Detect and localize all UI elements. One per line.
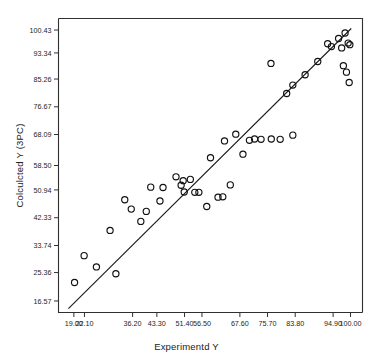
data-point <box>346 79 352 85</box>
y-axis-tick-marks <box>54 30 59 301</box>
y-tick-label: 100.43 <box>30 26 52 35</box>
y-tick-label: 85.26 <box>34 75 52 84</box>
x-tick-label: 67.60 <box>231 319 249 328</box>
y-tick-label: 33.74 <box>34 241 52 250</box>
data-point <box>290 82 296 88</box>
data-point <box>240 151 246 157</box>
data-point <box>339 45 345 51</box>
y-tick-label: 93.34 <box>34 49 52 58</box>
x-tick-label: 51.40 <box>176 319 194 328</box>
x-tick-label: 83.80 <box>286 319 304 328</box>
data-point <box>71 279 77 285</box>
y-tick-label: 68.09 <box>34 130 52 139</box>
data-point <box>343 69 349 75</box>
x-tick-label: 56.50 <box>193 319 211 328</box>
y-tick-label: 50.94 <box>34 186 52 195</box>
data-point <box>347 42 353 48</box>
x-tick-label: 43.30 <box>148 319 166 328</box>
data-point <box>207 155 213 161</box>
data-point <box>277 136 283 142</box>
y-axis-tick-labels: 16.5725.3633.7442.3350.9458.5068.0976.67… <box>30 26 52 306</box>
y-tick-label: 76.67 <box>34 102 52 111</box>
x-tick-label: 100.00 <box>340 319 362 328</box>
x-tick-label: 22.10 <box>75 319 93 328</box>
data-point <box>204 203 210 209</box>
data-point <box>143 208 149 214</box>
data-point <box>268 60 274 66</box>
data-point <box>128 206 134 212</box>
y-axis-title: Colculcted Y (3PC) <box>14 91 25 241</box>
y-tick-label: 58.50 <box>34 161 52 170</box>
plot-canvas: 16.5725.3633.7442.3350.9458.5068.0976.67… <box>0 0 373 360</box>
x-axis-tick-labels: 19.0022.1036.2043.3051.4056.5067.6075.70… <box>65 319 362 328</box>
data-point <box>187 176 193 182</box>
data-point <box>221 138 227 144</box>
x-tick-label: 36.20 <box>124 319 142 328</box>
data-point <box>148 184 154 190</box>
x-axis-title: Experimentd Y <box>0 341 373 352</box>
data-point <box>284 90 290 96</box>
data-point <box>340 63 346 69</box>
y-tick-label: 42.33 <box>34 213 52 222</box>
data-point <box>345 40 351 46</box>
data-point <box>122 197 128 203</box>
data-point <box>160 184 166 190</box>
data-point <box>113 271 119 277</box>
data-point <box>107 227 113 233</box>
data-point <box>157 198 163 204</box>
x-axis-tick-marks <box>74 313 351 318</box>
x-tick-label: 75.70 <box>259 319 277 328</box>
regression-line <box>68 29 351 309</box>
data-point <box>233 131 239 137</box>
data-point <box>196 189 202 195</box>
data-point <box>93 264 99 270</box>
y-tick-label: 25.36 <box>34 268 52 277</box>
data-point <box>290 132 296 138</box>
data-point <box>258 136 264 142</box>
data-point <box>268 136 274 142</box>
data-point <box>173 174 179 180</box>
y-tick-label: 16.57 <box>34 297 52 306</box>
data-point <box>81 253 87 259</box>
data-point <box>227 182 233 188</box>
data-point <box>138 218 144 224</box>
scatter-plot-figure: 16.5725.3633.7442.3350.9458.5068.0976.67… <box>0 0 373 360</box>
